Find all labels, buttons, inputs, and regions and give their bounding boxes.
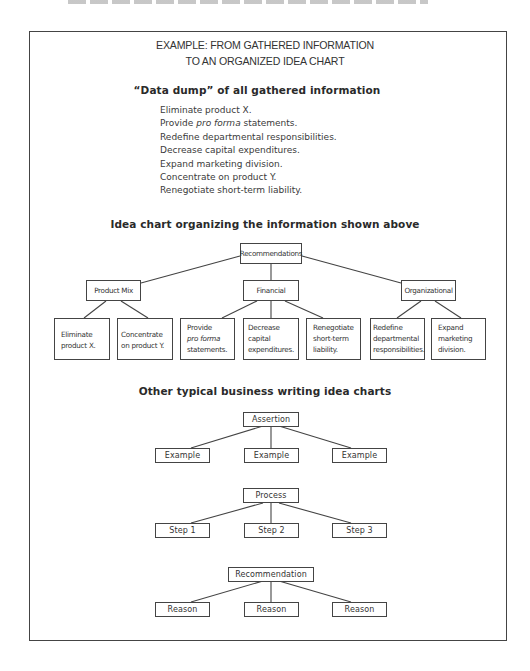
- assertion-root: Assertion: [243, 412, 299, 427]
- leaf-renegotiate-liability: Renegotiate short-term liability.: [306, 318, 361, 360]
- assertion-child: Example: [244, 448, 299, 463]
- assertion-child: Example: [155, 448, 210, 463]
- leaf-decrease-capital-expenditures: Decrease capital expenditures.: [243, 318, 299, 360]
- branch-product-mix: Product Mix: [86, 280, 141, 301]
- leaf-redefine-responsibilities: Redefine departmental responsibilities.: [370, 318, 425, 360]
- process-step: Step 2: [244, 523, 299, 538]
- branch-financial: Financial: [243, 280, 299, 301]
- recommendation-root: Recommendation: [228, 567, 314, 582]
- recommendation-reason: Reason: [155, 602, 210, 617]
- assertion-child: Example: [332, 448, 387, 463]
- leaf-eliminate-product-x: Eliminate product X.: [54, 318, 110, 360]
- chart-root-recommendations: Recommendations: [240, 243, 302, 264]
- recommendation-reason: Reason: [244, 602, 299, 617]
- branch-organizational: Organizational: [401, 280, 456, 301]
- process-step: Step 1: [155, 523, 210, 538]
- leaf-provide-pro-forma: Provide pro forma statements.: [180, 318, 235, 360]
- process-root: Process: [243, 488, 299, 503]
- leaf-concentrate-product-y: Concentrate on product Y.: [117, 318, 173, 360]
- recommendation-reason: Reason: [332, 602, 387, 617]
- process-step: Step 3: [332, 523, 387, 538]
- leaf-expand-marketing: Expand marketing division.: [431, 318, 486, 360]
- other-charts-heading: Other typical business writing idea char…: [0, 385, 530, 397]
